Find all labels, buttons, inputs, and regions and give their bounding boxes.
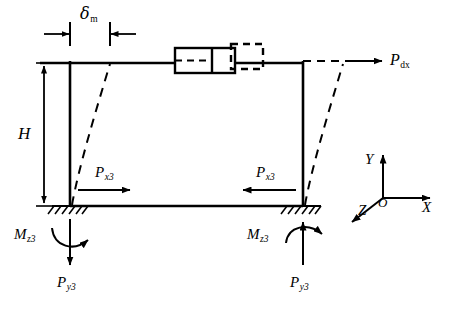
support-right xyxy=(281,206,321,214)
force-y3-right-label: Py3 xyxy=(290,275,308,290)
moment-z3-right-label: Mz3 xyxy=(247,227,268,242)
diagram-geometry xyxy=(0,0,450,312)
axis-z-label: Z xyxy=(358,203,366,218)
damper-element xyxy=(175,44,263,73)
delta-m-dimension xyxy=(44,22,136,46)
support-left xyxy=(48,206,88,214)
force-dx-label: Pdx xyxy=(390,52,409,68)
engineering-diagram: δm H Pdx Px3 Px3 Mz3 Mz3 Py3 Py3 Y X Z O xyxy=(0,0,450,312)
frame-structure xyxy=(40,61,303,206)
deflected-shape-left xyxy=(72,64,110,205)
axis-origin-label: O xyxy=(378,196,387,209)
deflected-shape-right xyxy=(305,64,343,205)
axis-y-label: Y xyxy=(365,152,373,167)
force-y3-left-label: Py3 xyxy=(57,275,75,290)
force-x3-left-label: Px3 xyxy=(95,165,113,180)
height-label: H xyxy=(18,125,30,142)
height-dimension xyxy=(36,63,60,206)
delta-m-label: δm xyxy=(80,6,97,22)
moment-z3-left-label: Mz3 xyxy=(14,227,35,242)
force-x3-right-label: Px3 xyxy=(256,165,274,180)
axis-x-label: X xyxy=(422,200,431,215)
